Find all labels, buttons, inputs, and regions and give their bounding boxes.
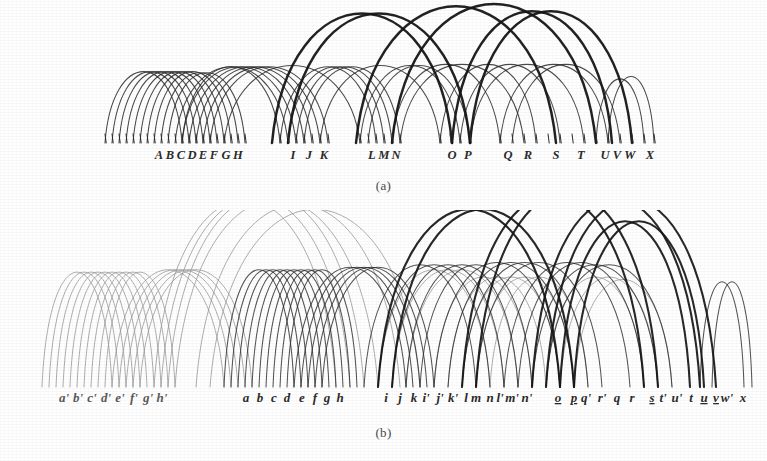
axis-label: g' [142, 390, 154, 405]
arc-group [42, 210, 672, 387]
axis-label: e' [115, 390, 125, 405]
axis-label: R [523, 148, 533, 162]
axis-label: m' [505, 390, 519, 405]
arc [532, 265, 658, 387]
axis-label: k' [448, 390, 459, 405]
caption-b: (b) [0, 425, 767, 441]
axis-label: H [232, 148, 244, 162]
axis-label: r [629, 390, 635, 405]
arc-group [105, 64, 654, 143]
axis-label: x [739, 390, 747, 405]
axis-label: t' [659, 390, 667, 405]
axis-label: d [284, 390, 291, 405]
axis-label: U [600, 148, 610, 162]
axis-label: I [289, 148, 296, 162]
axis-label: G [221, 148, 230, 162]
axis-label: w' [721, 390, 734, 405]
axis-label: C [177, 148, 186, 162]
arc [546, 265, 672, 387]
axis-label: m [471, 390, 481, 405]
axis-label: h [336, 390, 343, 405]
axis-label: e [299, 390, 305, 405]
axis-label: o [555, 390, 562, 405]
axis-label-group: ABCDEFGHIJKLMNOPQRSTUVWX [154, 148, 655, 162]
arc [356, 6, 556, 143]
axis-label: L [367, 148, 376, 162]
arc-group [378, 210, 716, 387]
arc [452, 11, 612, 143]
axis-label: t [689, 390, 693, 405]
axis-label: u [700, 390, 707, 405]
axis-label: g [323, 390, 331, 405]
axis-label: B [165, 148, 175, 162]
axis-label: j' [434, 390, 444, 405]
axis-label: V [613, 148, 623, 162]
axis-label: h' [157, 390, 168, 405]
axis-label: f [313, 390, 319, 405]
caption-a: (a) [0, 178, 767, 194]
axis-label: c' [87, 390, 97, 405]
axis-label: J [305, 148, 313, 162]
axis-label: r' [598, 390, 607, 405]
axis-label: l [464, 390, 468, 405]
axis-label: q' [581, 390, 592, 405]
arc [712, 282, 752, 387]
axis-label: N [390, 148, 401, 162]
arc [392, 270, 504, 387]
axis-label: v [713, 390, 719, 405]
axis-label: i' [422, 390, 430, 405]
figure-arc-diagrams: ABCDEFGHIJKLMNOPQRSTUVWX (a) a'b'c'd'e'f… [0, 0, 767, 461]
axis-label: A [154, 148, 164, 162]
axis-label: b [257, 390, 264, 405]
arc [224, 66, 360, 143]
axis-label: l' [496, 390, 504, 405]
axis-label-group: a'b'c'd'e'f'g'h'abcdefghijki'j'k'lmnl'm'… [59, 390, 747, 405]
axis-label: f' [130, 390, 138, 405]
axis-label: n' [522, 390, 533, 405]
axis-label: c [271, 390, 277, 405]
axis-label: F [209, 148, 219, 162]
axis-label: E [198, 148, 208, 162]
axis-label: s [648, 390, 654, 405]
axis-label: d' [101, 390, 112, 405]
axis-label: k [411, 390, 418, 405]
axis-label: a [243, 390, 250, 405]
arc [161, 210, 350, 387]
baseline-tick [548, 134, 549, 143]
axis-label: S [552, 148, 559, 162]
panel-b: a'b'c'd'e'f'g'h'abcdefghijki'j'k'lmnl'm'… [0, 210, 767, 461]
axis-label: X [645, 148, 655, 162]
axis-label: T [577, 148, 586, 162]
axis-label: u' [672, 390, 683, 405]
axis-label: Q [503, 148, 512, 162]
axis-label: a' [59, 390, 70, 405]
axis-label: M [377, 148, 390, 162]
axis-label: n [486, 390, 493, 405]
axis-label: W [624, 148, 636, 162]
axis-label: K [319, 148, 330, 162]
arc [210, 210, 420, 387]
axis-label: j [396, 390, 402, 405]
axis-label: p [570, 390, 578, 405]
axis-label: q [614, 390, 621, 405]
axis-label: O [447, 148, 456, 162]
panel-b-canvas: a'b'c'd'e'f'g'h'abcdefghijki'j'k'lmnl'm'… [0, 210, 767, 461]
baseline-tick-group [105, 134, 655, 143]
arc [320, 66, 440, 143]
baseline-tick [572, 134, 573, 143]
axis-label: D [186, 148, 196, 162]
axis-label: P [464, 148, 472, 162]
axis-label: i [384, 390, 388, 405]
axis-label: b' [73, 390, 84, 405]
